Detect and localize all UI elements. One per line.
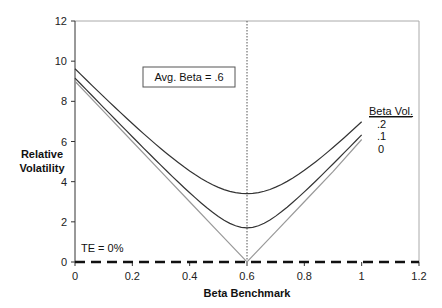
y-tick-label: 6: [61, 136, 67, 148]
y-tick-label: 10: [55, 55, 67, 67]
y-axis-title-line1: Relative: [21, 148, 63, 160]
te-annotation: TE = 0%: [81, 242, 124, 254]
avg-beta-annotation: Avg. Beta = .6: [154, 71, 223, 83]
y-tick-label: 8: [61, 95, 67, 107]
x-tick-label: 0.4: [182, 270, 197, 282]
legend-entry-0.2: .2: [377, 118, 386, 130]
x-tick-label: 0.8: [297, 270, 312, 282]
chart: 024681012 00.20.40.60.811.2 Relative Vol…: [0, 0, 442, 308]
y-tick-label: 0: [61, 256, 67, 268]
series-line-.2: [75, 69, 362, 194]
legend-entry-0.1: .1: [377, 130, 386, 142]
x-tick-label: 0.6: [239, 270, 254, 282]
y-axis-title-line2: Volatility: [19, 162, 65, 174]
series-line-0: [75, 81, 362, 262]
x-tick-label: 1.2: [411, 270, 426, 282]
x-tick-label: 0: [72, 270, 78, 282]
y-tick-label: 12: [55, 15, 67, 27]
y-tick-label: 2: [61, 216, 67, 228]
legend-entry-0: 0: [378, 143, 384, 155]
y-axis-ticks: 024681012: [55, 15, 75, 268]
y-tick-label: 4: [61, 176, 67, 188]
x-axis-ticks: 00.20.40.60.811.2: [72, 262, 427, 282]
x-tick-label: 0.2: [125, 270, 140, 282]
x-axis-title: Beta Benchmark: [204, 287, 292, 299]
series-line-.1: [75, 78, 362, 228]
legend-title: Beta Vol.: [369, 105, 413, 117]
x-tick-label: 1: [359, 270, 365, 282]
